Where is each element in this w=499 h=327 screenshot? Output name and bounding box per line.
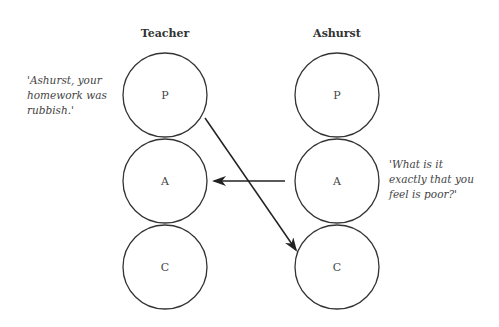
svg-text:homework was: homework was — [27, 89, 108, 101]
svg-text:'What is it: 'What is it — [389, 158, 444, 170]
teacher-parent-state: P — [123, 53, 207, 137]
arrow-teacher-parent-to-ashurst-child — [205, 118, 296, 250]
transaction-diagram: Teacher Ashurst P A C P A C 'Ashurst, yo… — [0, 0, 499, 327]
state-label: C — [333, 261, 341, 274]
svg-text:'Ashurst, your: 'Ashurst, your — [27, 74, 103, 86]
state-label: A — [160, 175, 170, 188]
ashurst-parent-state: P — [295, 53, 379, 137]
svg-text:exactly that you: exactly that you — [389, 173, 474, 185]
state-label: C — [161, 261, 169, 274]
state-label: P — [161, 89, 169, 102]
teacher-child-state: C — [123, 225, 207, 309]
svg-text:rubbish.': rubbish.' — [27, 104, 74, 116]
ashurst-adult-state: A — [295, 139, 379, 223]
teacher-adult-state: A — [123, 139, 207, 223]
state-label: A — [332, 175, 342, 188]
teacher-heading: Teacher — [141, 27, 190, 40]
ashurst-child-state: C — [295, 225, 379, 309]
ashurst-quote: 'What is it exactly that you feel is poo… — [388, 158, 474, 200]
teacher-quote: 'Ashurst, your homework was rubbish.' — [27, 74, 108, 116]
ashurst-heading: Ashurst — [312, 27, 362, 40]
svg-text:feel is poor?': feel is poor?' — [388, 188, 457, 200]
state-label: P — [333, 89, 341, 102]
